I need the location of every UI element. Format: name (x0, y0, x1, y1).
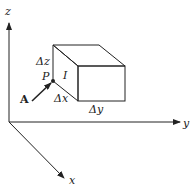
delta-y-label: Δy (88, 103, 104, 116)
vector-a-label: A (19, 93, 29, 106)
vector-a-arrow (32, 83, 51, 101)
delta-z-label: Δz (35, 55, 50, 68)
x-axis (9, 122, 64, 178)
delta-x-label: Δx (53, 92, 69, 105)
diagram-canvas: z y x Δz P I Δx Δy A (0, 0, 193, 192)
x-axis-label: x (69, 174, 76, 187)
point-p-label: P (41, 70, 50, 83)
face-i-label: I (62, 69, 68, 82)
z-axis-label: z (4, 5, 11, 18)
y-axis-label: y (182, 117, 190, 130)
point-p-marker (51, 79, 55, 83)
